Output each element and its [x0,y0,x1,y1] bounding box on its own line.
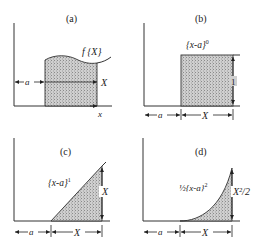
dim-X-label: X [100,77,108,88]
f-curve-tail [97,57,111,63]
dim-height-label: X²/2 [232,186,250,197]
dim-a-label: a [25,77,30,87]
panel-b: (b) {x-a}0 1 a X [144,13,240,121]
dim-a-label: a [158,110,163,120]
dim-height-label: 1 [231,77,236,87]
panel-b-label: (b) [195,13,207,25]
area-under-f [45,56,97,106]
panel-a: (a) f {X} a X x [14,13,112,119]
dim-a-label: a [158,227,163,237]
ramp-area [51,166,102,221]
panel-a-label: (a) [66,13,77,25]
panel-d: (d) ½{x-a}2 X²/2 a X [143,138,261,238]
dim-a-label: a [29,227,34,237]
dim-X-label: X [201,110,209,121]
panel-d-label: (d) [195,146,207,158]
dim-height-label: X [101,186,109,197]
f-label: f {X} [82,46,101,57]
function-label: {x-a}0 [186,39,209,50]
parabola-area [180,168,232,221]
dim-X-label: X [201,227,209,238]
function-label: ½{x-a}2 [179,182,207,193]
panel-c-label: (c) [60,146,71,158]
ramp-extension [102,162,106,166]
function-label: {x-a}1 [48,177,71,188]
dim-X-label: X [73,227,81,238]
singularity-function-diagram: (a) f {X} a X x (b) {x-a}0 1 a [0,0,264,250]
panel-c: (c) {x-a}1 X a X [14,138,111,238]
x-axis-label: x [97,109,102,119]
step-area [181,55,233,106]
